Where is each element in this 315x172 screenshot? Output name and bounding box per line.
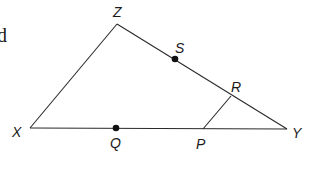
- label-q: Q: [110, 135, 121, 151]
- label-r: R: [231, 79, 241, 95]
- segment-xz: [30, 24, 117, 128]
- segment-xy: [30, 128, 287, 129]
- point-s-dot: [172, 56, 179, 63]
- label-z: Z: [112, 4, 122, 20]
- segment-zy: [117, 24, 287, 129]
- segment-pr: [203, 96, 231, 129]
- label-p: P: [196, 136, 206, 152]
- geometry-figure: d Z X Y S R P Q: [0, 0, 315, 172]
- label-x: X: [11, 124, 22, 140]
- point-q-dot: [113, 125, 120, 132]
- label-s: S: [175, 40, 185, 56]
- text-fragment: d: [0, 24, 7, 46]
- label-y: Y: [292, 125, 303, 141]
- triangle-diagram: d Z X Y S R P Q: [0, 0, 315, 172]
